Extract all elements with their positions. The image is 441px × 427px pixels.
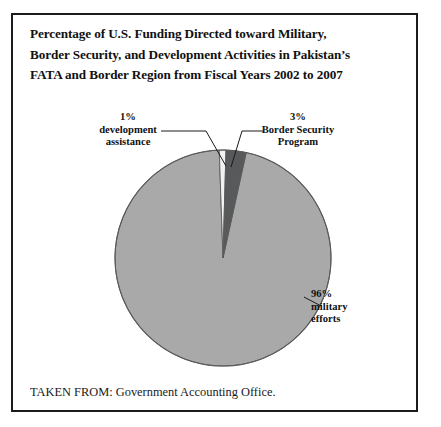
label-military-line1: military: [311, 301, 391, 314]
label-development-line1: development: [72, 124, 184, 137]
label-military-line2: efforts: [311, 313, 391, 326]
label-border-security-program: 3% Border Security Program: [235, 111, 361, 149]
label-development-line2: assistance: [72, 136, 184, 149]
label-military-percent: 96%: [311, 288, 391, 301]
source-caption: TAKEN FROM: Government Accounting Office…: [30, 385, 276, 400]
pie-chart: [13, 15, 416, 410]
label-border-security-percent: 3%: [235, 111, 361, 124]
label-border-security-line1: Border Security: [235, 124, 361, 137]
label-development-percent: 1%: [72, 111, 184, 124]
label-development-assistance: 1% development assistance: [72, 111, 184, 149]
label-border-security-line2: Program: [235, 136, 361, 149]
figure-frame: Percentage of U.S. Funding Directed towa…: [11, 13, 418, 412]
label-military-efforts: 96% military efforts: [311, 288, 391, 326]
pie-slices: [115, 150, 331, 366]
